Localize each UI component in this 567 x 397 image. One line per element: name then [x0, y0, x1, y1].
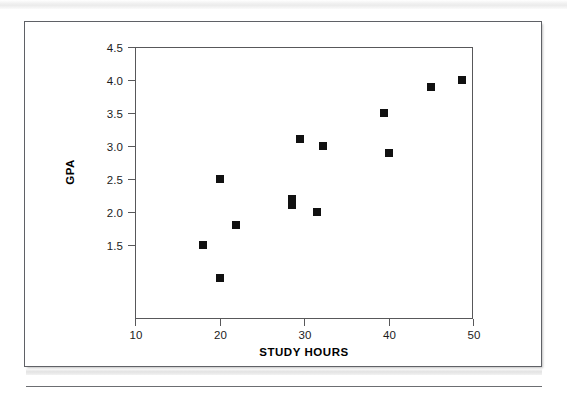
x-axis-tick-label: 20 [214, 326, 227, 341]
x-axis-tick-label: 30 [299, 326, 312, 341]
page-horizontal-rule [26, 386, 542, 387]
y-axis-tick: 2.5 [128, 179, 135, 180]
x-axis-tick: 50 [473, 319, 474, 326]
x-axis-tick: 30 [304, 319, 305, 326]
data-point-marker [296, 135, 304, 143]
data-point-marker [427, 83, 435, 91]
x-axis-tick: 20 [220, 319, 221, 326]
y-axis-tick-label: 4.5 [107, 42, 128, 54]
x-axis-tick: 40 [389, 319, 390, 326]
y-axis-tick: 2.0 [128, 212, 135, 213]
y-axis-tick-label: 4.0 [107, 75, 128, 87]
scan-artifact-top [0, 0, 567, 9]
y-axis-tick-label: 1.5 [107, 240, 128, 252]
plot-frame [135, 47, 473, 319]
data-point-marker [288, 201, 296, 209]
data-point-marker [313, 208, 321, 216]
y-axis-tick-label: 3.5 [107, 108, 128, 120]
data-point-marker [199, 241, 207, 249]
data-point-marker [385, 149, 393, 157]
data-point-marker [380, 109, 388, 117]
y-axis-tick: 3.0 [128, 146, 135, 147]
data-point-marker [458, 76, 466, 84]
x-axis-tick-label: 50 [468, 326, 481, 341]
x-axis-tick-label: 10 [130, 326, 143, 341]
data-point-marker [319, 142, 327, 150]
data-point-marker [216, 274, 224, 282]
figure-card: GPA 1.52.02.53.03.54.04.5 1020304050 STU… [24, 21, 542, 367]
x-axis-tick-label: 40 [383, 326, 396, 341]
y-axis-tick: 3.5 [128, 113, 135, 114]
x-axis-title: STUDY HOURS [135, 346, 473, 358]
scan-artifact-bottom [26, 369, 542, 375]
y-axis-tick-label: 3.0 [107, 141, 128, 153]
x-axis-tick: 10 [135, 319, 136, 326]
y-axis-tick: 4.5 [128, 47, 135, 48]
y-axis-tick-label: 2.5 [107, 174, 128, 186]
data-point-marker [232, 221, 240, 229]
y-axis-tick-label: 2.0 [107, 207, 128, 219]
scatter-chart: GPA 1.52.02.53.03.54.04.5 1020304050 STU… [25, 22, 543, 368]
y-axis-title: GPA [64, 159, 76, 185]
y-axis-tick: 1.5 [128, 245, 135, 246]
y-axis-tick: 4.0 [128, 80, 135, 81]
data-point-marker [216, 175, 224, 183]
